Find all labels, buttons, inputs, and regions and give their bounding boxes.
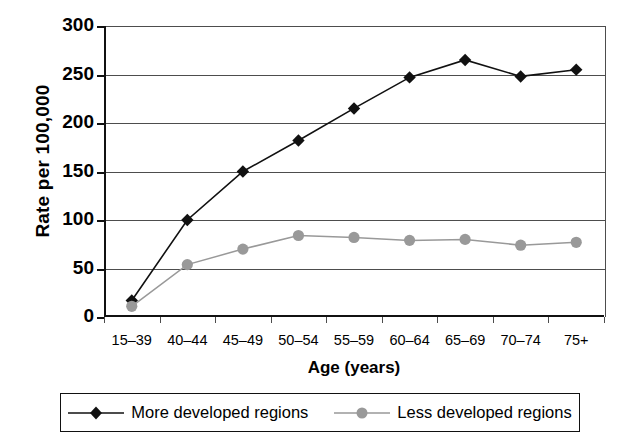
y-tick-mark [97, 26, 104, 28]
x-tick-mark [215, 317, 216, 323]
data-point-marker [404, 235, 415, 246]
y-tick-label: 0 [24, 305, 94, 327]
y-tick-label: 200 [24, 111, 94, 133]
legend-label-more-developed: More developed regions [131, 403, 308, 422]
y-tick-mark [97, 317, 104, 319]
y-tick-label: 100 [24, 208, 94, 230]
data-point-marker [292, 134, 304, 146]
x-tick-label: 40–44 [167, 332, 207, 348]
x-tick-mark [382, 317, 383, 323]
x-tick-label: 75+ [564, 332, 589, 348]
data-point-marker [459, 54, 471, 66]
y-tick-label: 50 [24, 257, 94, 279]
y-tick-mark [97, 75, 104, 77]
y-tick-mark [97, 269, 104, 271]
data-point-marker [182, 259, 193, 270]
diamond-marker-icon [68, 405, 124, 421]
circle-marker-icon [334, 405, 390, 421]
x-axis-title: Age (years) [104, 358, 604, 378]
x-tick-mark [548, 317, 549, 323]
x-tick-label: 55–59 [334, 332, 374, 348]
x-tick-mark [326, 317, 327, 323]
x-tick-label: 45–49 [223, 332, 263, 348]
x-tick-mark [271, 317, 272, 323]
x-tick-label: 65–69 [445, 332, 485, 348]
x-tick-mark [160, 317, 161, 323]
y-tick-mark [97, 220, 104, 222]
y-tick-label: 150 [24, 160, 94, 182]
legend-item-less-developed: Less developed regions [334, 403, 571, 422]
x-tick-label: 60–64 [389, 332, 429, 348]
x-tick-label: 50–54 [278, 332, 318, 348]
line-chart: Rate per 100,000 050100150200250300 15–3… [0, 0, 639, 448]
data-point-marker [514, 70, 526, 82]
data-point-marker [571, 237, 582, 248]
data-point-marker [403, 71, 415, 83]
y-tick-mark [97, 123, 104, 125]
data-point-marker [348, 102, 360, 114]
legend-label-less-developed: Less developed regions [397, 403, 571, 422]
data-point-marker [126, 301, 137, 312]
x-tick-mark [493, 317, 494, 323]
y-tick-label: 300 [24, 14, 94, 36]
data-point-marker [237, 244, 248, 255]
y-tick-mark [97, 172, 104, 174]
y-tick-label: 250 [24, 63, 94, 85]
x-tick-label: 15–39 [112, 332, 152, 348]
data-point-marker [570, 63, 582, 75]
plot-right-border [605, 26, 606, 317]
series-line [132, 236, 576, 307]
x-tick-mark [104, 317, 105, 323]
data-point-marker [460, 234, 471, 245]
data-point-marker [348, 232, 359, 243]
x-tick-mark [604, 317, 605, 323]
series-layer [104, 26, 604, 317]
x-tick-label: 70–74 [500, 332, 540, 348]
legend-item-more-developed: More developed regions [68, 403, 308, 422]
x-tick-mark [437, 317, 438, 323]
data-point-marker [515, 240, 526, 251]
series-line [132, 60, 576, 301]
chart-legend: More developed regions Less developed re… [60, 393, 580, 432]
data-point-marker [293, 230, 304, 241]
